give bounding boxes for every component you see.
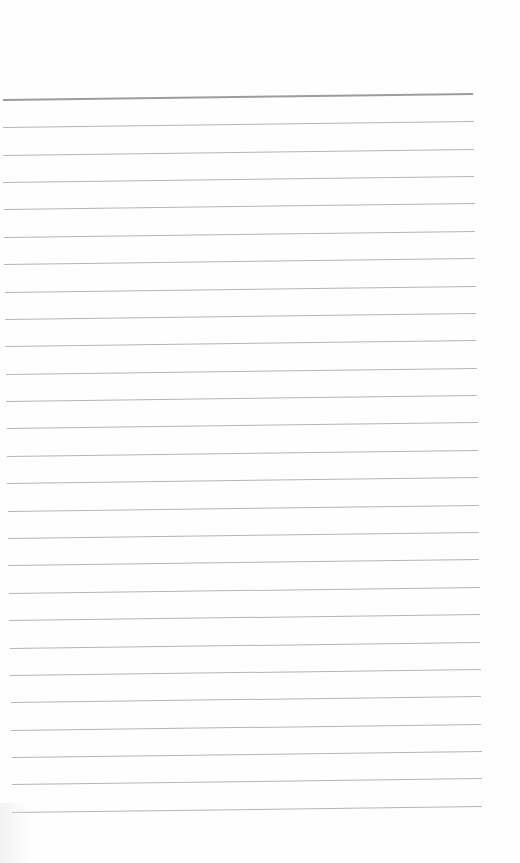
ruled-line: [9, 587, 480, 594]
ruled-line: [3, 149, 474, 156]
ruled-line: [8, 532, 479, 539]
ruled-line: [12, 751, 482, 758]
ruled-line: [6, 368, 477, 375]
ruled-line: [5, 313, 476, 320]
ruled-line: [6, 395, 477, 402]
ruled-line: [8, 505, 479, 512]
ruled-line: [12, 806, 482, 813]
ruled-line: [11, 724, 481, 731]
ruled-line: [10, 642, 480, 649]
ruled-line: [4, 258, 475, 265]
ruled-line: [5, 286, 476, 293]
lined-sheet: [0, 0, 520, 863]
header-rule-line: [3, 93, 473, 101]
lined-paper-page: [0, 0, 520, 863]
ruled-line: [3, 176, 474, 183]
scan-corner-shadow: [0, 803, 30, 863]
ruled-line: [5, 340, 476, 347]
ruled-line: [7, 477, 478, 484]
ruled-line: [7, 450, 478, 457]
ruled-line: [4, 203, 475, 210]
ruled-line: [4, 231, 475, 238]
ruled-line: [3, 121, 474, 128]
ruled-line: [9, 614, 480, 621]
ruled-line: [12, 778, 482, 785]
ruled-line: [8, 559, 479, 566]
ruled-line: [10, 669, 481, 676]
ruled-line: [11, 696, 481, 703]
ruled-line: [7, 422, 478, 429]
